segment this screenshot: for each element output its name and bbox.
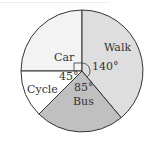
label-bus: Bus [73,95,94,108]
label-walk: Walk [104,41,131,54]
label-walk-angle: 140° [92,60,119,73]
label-cycle: Cycle [27,83,58,96]
label-car: Car [54,51,75,64]
pie-chart: Car Walk 140° 45° 85° Bus Cycle [0,0,152,141]
label-bus-angle: 85° [74,81,94,94]
